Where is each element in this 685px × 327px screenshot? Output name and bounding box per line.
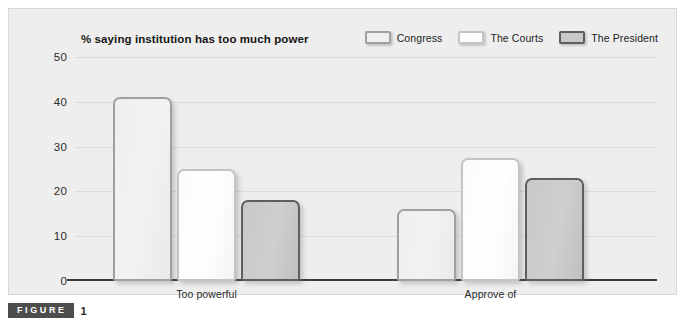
x-axis-category-label-approve-of: Approve of (465, 288, 517, 300)
chart-title: % saying institution has too much power (81, 33, 309, 45)
figure-number: 1 (81, 305, 87, 317)
legend-label-the-president: The President (591, 32, 658, 44)
y-axis-tick-label: 30 (54, 141, 67, 153)
legend-label-the-courts: The Courts (490, 32, 543, 44)
legend-swatch-icon-congress (365, 31, 391, 44)
chart-panel: % saying institution has too much power … (8, 8, 677, 295)
gridline-50 (75, 57, 657, 58)
legend-label-congress: Congress (397, 32, 443, 44)
legend-item-the-president[interactable]: The President (559, 31, 658, 44)
chart-legend: Congress The Courts The President (365, 31, 658, 44)
legend-item-congress[interactable]: Congress (365, 31, 443, 44)
legend-swatch-icon-the-courts (458, 31, 484, 44)
plot-area: 01020304050Too powerfulApprove of (75, 57, 657, 281)
y-axis-tick-label: 50 (54, 51, 67, 63)
figure-badge-label: FIGURE (8, 303, 74, 318)
figure-root: % saying institution has too much power … (0, 0, 685, 327)
y-axis-tick-label: 20 (54, 185, 67, 197)
bar-too-powerful-the-courts[interactable] (177, 169, 236, 281)
y-axis-tick-label: 0 (60, 275, 67, 287)
bar-too-powerful-the-president[interactable] (241, 200, 300, 281)
x-axis-category-label-too-powerful: Too powerful (176, 288, 237, 300)
legend-swatch-icon-the-president (559, 31, 585, 44)
bar-approve-of-the-president[interactable] (525, 178, 584, 281)
bar-approve-of-the-courts[interactable] (461, 158, 520, 281)
bar-too-powerful-congress[interactable] (113, 97, 172, 281)
bar-approve-of-congress[interactable] (397, 209, 456, 281)
y-axis-tick-label: 40 (54, 96, 67, 108)
y-axis-tick-label: 10 (54, 230, 67, 242)
legend-item-the-courts[interactable]: The Courts (458, 31, 543, 44)
figure-caption: FIGURE 1 (8, 303, 87, 318)
